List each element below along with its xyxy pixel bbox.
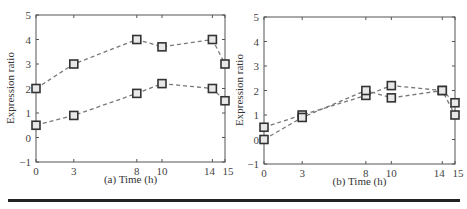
y-tick-label: 2	[26, 83, 32, 95]
square-marker-icon	[70, 111, 78, 119]
y-tick-label: 4	[254, 36, 260, 48]
square-marker-icon	[70, 60, 78, 68]
x-tick-label: 3	[299, 167, 305, 179]
square-marker-icon	[451, 111, 459, 119]
square-marker-icon	[260, 123, 268, 131]
x-tick-label: 15	[223, 165, 235, 177]
chart-panel-a: −1012345038101415(a) Time (h)Expression …	[4, 9, 234, 186]
y-tick-label: 5	[254, 11, 260, 23]
plot-frame	[264, 17, 455, 164]
y-tick-label: 4	[26, 34, 32, 46]
square-marker-icon	[208, 85, 216, 93]
x-tick-label: 3	[71, 165, 77, 177]
square-marker-icon	[158, 80, 166, 88]
x-tick-label: 14	[434, 167, 446, 179]
square-marker-icon	[451, 99, 459, 107]
square-marker-icon	[362, 87, 370, 95]
square-marker-icon	[208, 36, 216, 44]
series-line	[264, 86, 455, 128]
square-marker-icon	[260, 136, 268, 144]
bottom-rule	[8, 199, 460, 202]
y-tick-label: 5	[26, 9, 32, 21]
x-tick-label: 15	[453, 167, 465, 179]
x-axis-label: (a) Time (h)	[104, 173, 158, 186]
figure: −1012345038101415(a) Time (h)Expression …	[0, 0, 467, 209]
square-marker-icon	[221, 60, 229, 68]
series-line	[36, 84, 225, 126]
square-marker-icon	[387, 94, 395, 102]
square-marker-icon	[32, 121, 40, 129]
y-tick-label: 0	[254, 134, 260, 146]
y-tick-label: 1	[26, 107, 32, 119]
x-tick-label: 0	[33, 165, 39, 177]
y-tick-label: 3	[254, 60, 260, 72]
y-tick-label: 1	[254, 109, 260, 121]
square-marker-icon	[438, 87, 446, 95]
square-marker-icon	[298, 113, 306, 121]
y-axis-label: Expression ratio	[4, 52, 16, 124]
x-tick-label: 10	[157, 165, 169, 177]
square-marker-icon	[387, 82, 395, 90]
chart-panel-b: −1012345038101415(b) Time (h)Expression …	[233, 11, 464, 188]
x-axis-label: (b) Time (h)	[333, 175, 387, 188]
y-tick-label: 3	[26, 58, 32, 70]
y-tick-label: −1	[19, 156, 31, 168]
y-axis-label: Expression ratio	[233, 54, 245, 126]
plot-frame	[36, 15, 225, 162]
y-tick-label: 2	[254, 85, 260, 97]
square-marker-icon	[133, 89, 141, 97]
square-marker-icon	[133, 36, 141, 44]
square-marker-icon	[221, 97, 229, 105]
y-tick-label: 0	[26, 132, 32, 144]
series-line	[36, 40, 225, 89]
x-tick-label: 14	[204, 165, 216, 177]
x-tick-label: 10	[386, 167, 398, 179]
square-marker-icon	[158, 43, 166, 51]
y-tick-label: −1	[247, 158, 259, 170]
square-marker-icon	[32, 85, 40, 93]
x-tick-label: 0	[261, 167, 267, 179]
